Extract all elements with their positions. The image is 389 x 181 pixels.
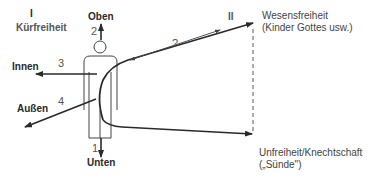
label-innen: Innen bbox=[12, 62, 39, 72]
label-oben: Oben bbox=[88, 12, 114, 22]
number-outer: 4 bbox=[58, 96, 64, 107]
region-right-numeral: II bbox=[228, 12, 234, 22]
bottom-outcome-line1: Unfreiheit/Knechtschaft bbox=[259, 148, 362, 158]
number-inner: 3 bbox=[58, 58, 64, 69]
question-mark: ? bbox=[172, 38, 178, 49]
arrow-to-unfreiheit bbox=[103, 120, 252, 134]
top-outcome-line1: Wesensfreiheit bbox=[262, 11, 328, 21]
number-down: 1 bbox=[92, 143, 98, 154]
figure-head bbox=[94, 41, 106, 53]
label-unten: Unten bbox=[87, 158, 115, 168]
region-left-numeral: I bbox=[30, 9, 33, 19]
top-outcome-line2: (Kinder Gottes usw.) bbox=[262, 23, 353, 33]
number-up: 2 bbox=[91, 26, 97, 37]
label-aussen: Außen bbox=[17, 104, 48, 114]
region-left-title: Kürfreiheit bbox=[16, 23, 67, 33]
bottom-outcome-line2: („Sünde") bbox=[259, 160, 301, 170]
